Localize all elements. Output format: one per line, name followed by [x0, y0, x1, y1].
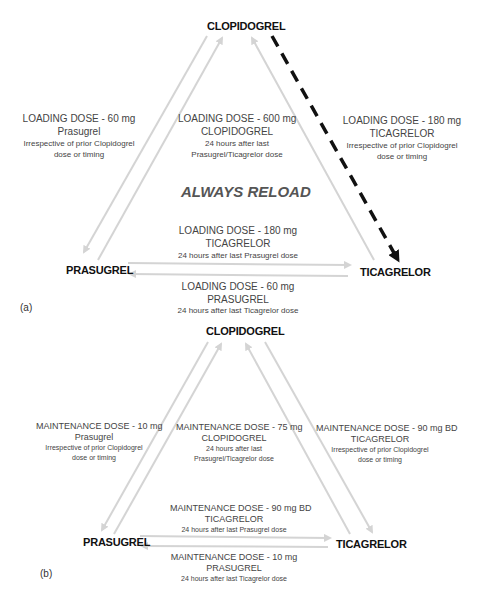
node-clopidogrel: CLOPIDOGREL: [206, 325, 284, 337]
label-clopidogrel-to-ticagrelor: MAINTENANCE DOSE - 90 mg BD TICAGRELOR I…: [316, 423, 444, 465]
node-prasugrel: PRASUGREL: [83, 536, 150, 548]
node-clopidogrel: CLOPIDOGREL: [207, 20, 285, 32]
arrow-ticagrelor-to-prasugrel: [130, 274, 348, 276]
node-ticagrelor: TICAGRELOR: [360, 266, 431, 278]
always-reload-heading: ALWAYS RELOAD: [181, 183, 311, 200]
label-clopidogrel-to-prasugrel: MAINTENANCE DOSE - 10 mg Prasugrel Irres…: [36, 421, 152, 463]
node-prasugrel: PRASUGREL: [66, 264, 133, 276]
label-ticagrelor-to-prasugrel: MAINTENANCE DOSE - 10 mg PRASUGREL 24 ho…: [170, 552, 298, 584]
node-ticagrelor: TICAGRELOR: [336, 538, 407, 550]
label-prasugrel-to-ticagrelor: LOADING DOSE - 180 mg TICAGRELOR 24 hour…: [170, 224, 306, 261]
panel-b-tag: (b): [40, 568, 52, 579]
label-to-clopidogrel: LOADING DOSE - 600 mg CLOPIDOGREL 24 hou…: [178, 112, 296, 160]
arrow-prasugrel-to-ticagrelor: [140, 536, 330, 538]
panel-a-loading-dose: CLOPIDOGREL PRASUGREL TICAGRELOR LOADING…: [0, 0, 482, 300]
label-clopidogrel-to-ticagrelor: LOADING DOSE - 180 mg TICAGRELOR Irrespe…: [340, 114, 464, 162]
label-clopidogrel-to-prasugrel: LOADING DOSE - 60 mg Prasugrel Irrespect…: [18, 112, 140, 160]
panel-b-maintenance-dose: CLOPIDOGREL PRASUGREL TICAGRELOR MAINTEN…: [0, 300, 482, 599]
label-to-clopidogrel: MAINTENANCE DOSE - 75 mg CLOPIDOGREL 24 …: [176, 422, 292, 464]
arrow-ticagrelor-to-prasugrel: [142, 546, 328, 547]
label-prasugrel-to-ticagrelor: MAINTENANCE DOSE - 90 mg BD TICAGRELOR 2…: [170, 503, 298, 535]
arrow-prasugrel-to-ticagrelor: [128, 263, 350, 265]
